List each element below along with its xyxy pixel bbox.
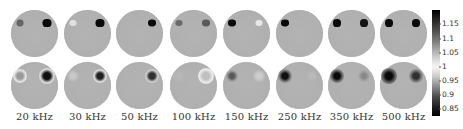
inclusion-spot bbox=[253, 70, 265, 82]
colorbar-tick-label: 0.95 bbox=[442, 76, 459, 85]
inclusion-spot bbox=[330, 69, 344, 83]
inclusion-spot bbox=[145, 69, 159, 83]
inclusion-spot bbox=[381, 68, 397, 84]
colorbar-tick-label: 1.05 bbox=[442, 48, 459, 57]
inclusion-spot bbox=[412, 19, 420, 27]
inclusion-spot bbox=[176, 20, 183, 26]
inclusion-spot bbox=[70, 20, 77, 26]
inclusion-spot bbox=[307, 71, 317, 81]
inclusion-spot bbox=[43, 19, 52, 27]
top-disk-350-khz bbox=[328, 10, 375, 57]
bottom-disk-500-khz bbox=[380, 62, 427, 109]
inclusion-spot bbox=[281, 20, 289, 27]
inclusion-spot bbox=[93, 69, 107, 83]
inclusion-spot bbox=[39, 68, 55, 84]
frequency-label: 20 kHz bbox=[9, 111, 61, 122]
inclusion-spot bbox=[409, 69, 423, 83]
inclusion-spot bbox=[173, 70, 185, 82]
colorbar-tick-label: 1 bbox=[442, 62, 447, 71]
bottom-disk-50-khz bbox=[116, 62, 163, 109]
inclusion-spot bbox=[148, 20, 156, 27]
inclusion-spot bbox=[256, 20, 263, 26]
colorbar-tick-label: 0.85 bbox=[442, 104, 459, 113]
inclusion-spot bbox=[198, 68, 214, 84]
bottom-disk-350-khz bbox=[328, 62, 375, 109]
inclusion-spot bbox=[67, 70, 79, 82]
inclusion-spot bbox=[278, 69, 292, 83]
frequency-label: 150 kHz bbox=[221, 111, 273, 122]
colorbar-tick-label: 1.1 bbox=[442, 34, 454, 43]
frequency-label: 100 kHz bbox=[168, 111, 220, 122]
inclusion-spot bbox=[333, 19, 341, 27]
bottom-disk-30-khz bbox=[64, 62, 111, 109]
top-disk-30-khz bbox=[64, 10, 111, 57]
frequency-label: 50 kHz bbox=[114, 111, 166, 122]
bottom-disk-100-khz bbox=[170, 62, 217, 109]
inclusion-spot bbox=[13, 69, 27, 83]
colorbar-tick-label: 1.15 bbox=[442, 19, 459, 28]
inclusion-spot bbox=[226, 70, 238, 82]
top-disk-50-khz bbox=[116, 10, 163, 57]
inclusion-spot bbox=[358, 70, 370, 82]
frequency-label: 500 kHz bbox=[378, 111, 430, 122]
inclusion-spot bbox=[385, 19, 393, 27]
bottom-disk-250-khz bbox=[276, 62, 323, 109]
top-disk-20-khz bbox=[11, 10, 58, 57]
top-disk-100-khz bbox=[170, 10, 217, 57]
bottom-disk-20-khz bbox=[11, 62, 58, 109]
inclusion-spot bbox=[202, 20, 210, 27]
reconstruction-figure: 20 kHz30 kHz50 kHz100 kHz150 kHz250 kHz3… bbox=[0, 0, 463, 129]
frequency-label: 30 kHz bbox=[62, 111, 114, 122]
colorbar bbox=[432, 10, 440, 116]
inclusion-spot bbox=[17, 20, 24, 27]
frequency-label: 350 kHz bbox=[326, 111, 378, 122]
bottom-disk-150-khz bbox=[223, 62, 270, 109]
top-disk-150-khz bbox=[223, 10, 270, 57]
colorbar-tick-label: 0.9 bbox=[442, 90, 454, 99]
inclusion-spot bbox=[228, 20, 236, 27]
inclusion-spot bbox=[96, 19, 105, 27]
frequency-label: 250 kHz bbox=[274, 111, 326, 122]
top-disk-250-khz bbox=[276, 10, 323, 57]
top-disk-500-khz bbox=[380, 10, 427, 57]
inclusion-spot bbox=[360, 19, 368, 27]
